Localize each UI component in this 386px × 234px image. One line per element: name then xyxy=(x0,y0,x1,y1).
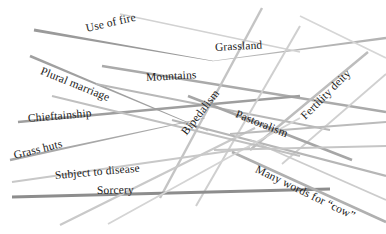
trait-label: Pastoralism xyxy=(234,108,290,139)
trait-label: Many words for “cow” xyxy=(253,164,356,222)
trait-label: Grassland xyxy=(215,40,263,54)
trait-label: Subject to disease xyxy=(54,163,140,182)
trait-web-figure: Use of fireGrasslandPlural marriageMount… xyxy=(0,0,386,234)
trait-label: Chieftainship xyxy=(27,107,92,124)
trait-label: Sorcery xyxy=(97,184,134,196)
trait-label: Grass huts xyxy=(13,138,64,161)
trait-label: Fertility deity xyxy=(299,68,353,122)
labels-layer: Use of fireGrasslandPlural marriageMount… xyxy=(0,0,386,234)
trait-label: Use of fire xyxy=(85,12,137,35)
trait-label: Bipedalism xyxy=(179,88,221,138)
trait-label: Plural marriage xyxy=(39,65,111,103)
trait-label: Mountains xyxy=(146,69,197,83)
